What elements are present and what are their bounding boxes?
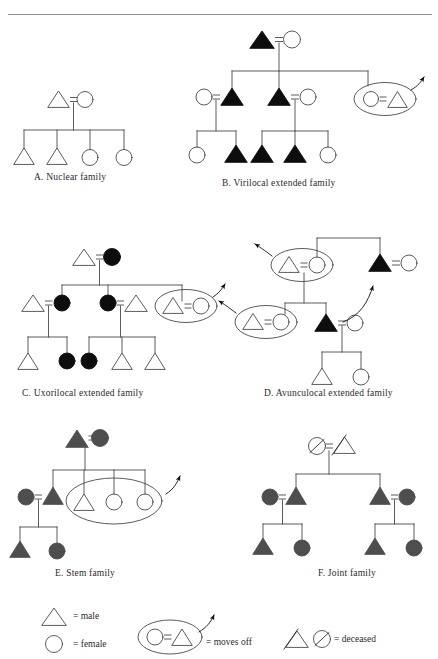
symbol-female-gray <box>294 540 310 556</box>
symbol-male-gray <box>370 487 390 504</box>
symbol-male-outline <box>74 494 94 510</box>
legend-moves-off-arrow <box>199 615 214 632</box>
legend-label-moves-off: = moves off <box>206 637 252 647</box>
symbol-female-gray <box>49 543 65 559</box>
symbol-male-outline <box>47 148 67 164</box>
symbol-male-gray <box>66 430 88 447</box>
figure-e-group <box>10 430 180 560</box>
moves-off-ellipse <box>235 306 297 339</box>
symbol-female-outline <box>401 255 417 271</box>
symbol-female-outline <box>77 92 93 108</box>
moves-off-arrow <box>219 301 236 313</box>
figure-f-group <box>253 435 422 556</box>
residence-arrow <box>343 286 373 322</box>
symbol-male-outline <box>22 295 44 311</box>
symbol-female-outline <box>116 150 132 166</box>
legend-circle-outline-icon <box>46 636 63 653</box>
symbol-female-outline <box>106 494 122 510</box>
moves-off-arrow <box>166 476 180 494</box>
symbol-male-deceased <box>334 437 355 453</box>
symbol-female-outline <box>347 315 363 331</box>
symbol-female-gray <box>18 489 34 505</box>
symbol-male-filled <box>221 88 243 105</box>
symbol-male-filled <box>284 145 306 162</box>
figure-d-caption: D. Avunculocal extended family <box>264 388 393 398</box>
legend-label-female: = female <box>73 639 107 649</box>
legend-male-outline-icon <box>172 629 192 645</box>
symbol-female-outline <box>189 147 205 163</box>
symbol-male-gray <box>10 541 30 557</box>
symbol-female-outline <box>353 369 369 385</box>
kinship-figures-svg <box>0 0 438 659</box>
symbol-male-filled <box>315 314 337 331</box>
symbol-male-outline <box>145 353 165 369</box>
figure-a-group <box>14 91 132 166</box>
symbol-female-outline <box>309 257 325 273</box>
figure-c-group <box>18 249 225 370</box>
symbol-female-outline <box>82 150 98 166</box>
symbol-female-filled <box>81 353 97 369</box>
symbol-male-filled <box>268 88 290 105</box>
symbol-male-filled <box>251 145 273 162</box>
symbol-female-gray <box>406 540 422 556</box>
symbol-male-outline <box>112 353 132 369</box>
symbol-male-outline <box>48 91 69 107</box>
moves-off-ellipse <box>271 249 333 282</box>
symbol-female-outline <box>196 89 212 105</box>
symbol-male-filled <box>369 254 391 271</box>
figure-b-caption: B. Virilocal extended family <box>222 178 336 188</box>
moves-off-arrow <box>411 77 424 90</box>
symbol-male-outline <box>279 257 299 273</box>
symbol-male-filled <box>225 145 247 162</box>
symbol-male-outline <box>14 148 34 164</box>
figure-b-group <box>189 31 424 163</box>
moves-off-arrow <box>213 284 225 297</box>
legend-deceased-slash <box>284 629 298 649</box>
legend-ellipse-arrow-icon <box>138 620 202 654</box>
symbol-male-outline <box>243 314 263 330</box>
symbol-male-outline <box>312 368 332 384</box>
deceased-slash <box>332 435 346 455</box>
symbol-female-gray <box>262 489 278 505</box>
symbol-male-gray <box>365 538 385 554</box>
symbol-male-outline <box>18 353 38 369</box>
figure-f-caption: F. Joint family <box>318 568 376 578</box>
symbol-female-outline <box>193 298 209 314</box>
figure-a-caption: A. Nuclear family <box>34 172 106 182</box>
legend-triangle-outline-icon <box>42 608 66 625</box>
symbol-female-filled <box>104 249 121 266</box>
figure-c-caption: C. Uxorilocal extended family <box>22 388 143 398</box>
figure-e-caption: E. Stem family <box>55 568 115 578</box>
symbol-male-outline <box>73 249 95 265</box>
moves-off-ellipse <box>155 290 217 323</box>
symbol-female-outline <box>300 89 316 105</box>
legend-female-outline-icon <box>147 629 163 645</box>
symbol-male-gray <box>253 538 273 554</box>
legend-label-male: = male <box>73 611 99 621</box>
symbol-male-gray <box>286 487 306 504</box>
symbol-male-filled <box>250 31 274 48</box>
moves-off-arrow <box>255 244 272 256</box>
symbol-female-gray <box>399 489 415 505</box>
symbol-female-outline <box>273 314 289 330</box>
symbol-female-outline <box>320 147 336 163</box>
symbol-male-outline <box>388 92 407 108</box>
legend-deceased-slash <box>315 633 329 646</box>
deceased-slash <box>310 440 324 453</box>
figure-d-group <box>219 238 417 385</box>
symbol-female-outline <box>364 92 379 107</box>
symbol-female-outline <box>137 494 153 510</box>
kinship-diagram-page: A. Nuclear family B. Virilocal extended … <box>0 0 438 659</box>
symbol-female-filled <box>59 353 75 369</box>
legend-label-deceased: = deceased <box>334 634 376 644</box>
symbol-female-filled <box>54 295 70 311</box>
symbol-male-outline <box>163 298 183 314</box>
symbol-female-gray <box>92 430 109 447</box>
legend-male-deceased-icon <box>286 631 308 647</box>
symbol-female-filled <box>100 295 116 311</box>
symbol-male-gray <box>43 487 63 504</box>
symbol-female-outline <box>284 31 301 48</box>
symbol-male-outline <box>125 295 147 311</box>
